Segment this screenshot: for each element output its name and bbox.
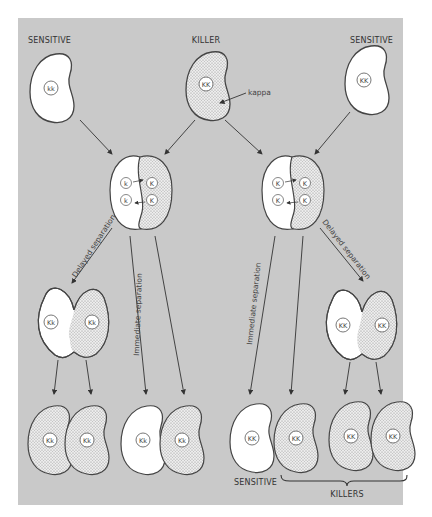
genotype-label: k	[124, 197, 128, 205]
genotype-label: K	[150, 197, 155, 205]
genotype-label: Kk	[83, 437, 91, 445]
label-delayed-separation-left: Delayed separation	[70, 213, 118, 279]
progeny-cell-5: KK	[230, 404, 274, 473]
label-immediate-separation-left: Immediate separation	[132, 273, 144, 356]
genotype-label: K	[303, 180, 308, 188]
progeny-cell-4: Kk	[160, 406, 204, 475]
genotype-label: K	[276, 197, 281, 205]
label-sensitive-bottom: SENSITIVE	[234, 478, 277, 487]
delayed-cell-left: Kk Kk	[38, 288, 108, 358]
label-delayed-separation-right: Delayed separation	[320, 218, 372, 281]
progeny-cell-3: Kk	[121, 406, 165, 475]
top-cell-killer-center: KILLER KK kappa	[186, 36, 271, 120]
label-kappa: kappa	[248, 88, 271, 97]
genotype-label: Kk	[88, 319, 96, 327]
progeny-cell-8: KK	[371, 402, 415, 471]
genotype-label: Kk	[139, 437, 147, 445]
progeny-cell-7: KK	[329, 402, 373, 471]
genotype-label: K	[303, 197, 308, 205]
top-cell-sensitive-right: SENSITIVE KK	[345, 36, 393, 114]
genotype-label: KK	[292, 435, 301, 443]
genotype-label: K	[150, 180, 155, 188]
genotype-label: K	[276, 180, 281, 188]
genotype-label: KK	[202, 81, 211, 89]
label-sensitive-left: SENSITIVE	[28, 36, 71, 45]
genotype-label: kk	[47, 85, 55, 93]
genotype-label: Kk	[178, 437, 186, 445]
genotype-label: Kk	[47, 319, 55, 327]
genotype-label: KK	[378, 322, 387, 330]
label-sensitive-right: SENSITIVE	[350, 36, 393, 45]
delayed-cell-right: KK KK	[326, 290, 396, 360]
arrows-to-progeny	[54, 360, 381, 394]
genotype-label: Kk	[46, 437, 54, 445]
label-killers: KILLERS	[330, 490, 364, 499]
conjugating-pair-right: K K K K	[262, 156, 324, 229]
progeny-cell-2: Kk	[65, 406, 109, 475]
separation-arrows	[72, 228, 363, 394]
genotype-label: KK	[248, 435, 257, 443]
top-cell-sensitive-left: SENSITIVE kk	[28, 36, 74, 122]
genotype-label: KK	[339, 322, 348, 330]
killers-bracket	[281, 475, 407, 486]
genotype-label: k	[124, 180, 128, 188]
genotype-label: KK	[389, 433, 398, 441]
genotype-label: KK	[347, 433, 356, 441]
paramecium-conjugation-diagram: SENSITIVE kk KILLER KK kappa SENSITIVE K…	[0, 0, 432, 517]
label-killer: KILLER	[192, 36, 221, 45]
progeny-cell-6: KK	[274, 404, 318, 473]
genotype-label: KK	[360, 77, 369, 85]
progeny-row: Kk Kk Kk Kk KK KK KK	[28, 402, 415, 475]
conjugating-pair-left: k K k K	[110, 156, 172, 229]
